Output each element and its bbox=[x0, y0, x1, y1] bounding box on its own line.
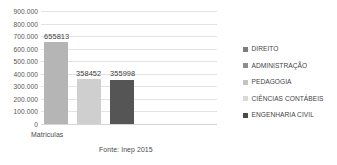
legend-swatch-icon bbox=[243, 80, 248, 85]
legend-swatch-icon bbox=[243, 113, 248, 118]
y-tick-label: 900.000 bbox=[13, 8, 38, 15]
x-axis-category-label: Matriculas bbox=[31, 131, 63, 138]
bar-direito[interactable] bbox=[44, 42, 68, 124]
legend-item-direito[interactable]: DIREITO bbox=[243, 41, 337, 58]
y-tick-label: 0 bbox=[34, 121, 38, 128]
legend-swatch-icon bbox=[243, 47, 248, 52]
bar-value-label: 655813 bbox=[44, 33, 69, 41]
y-tick-label: 800.000 bbox=[13, 20, 38, 27]
y-tick-label: 700.000 bbox=[13, 33, 38, 40]
legend-item-engenharia-civil[interactable]: ENGENHARIA CIVIL bbox=[243, 107, 337, 124]
chart-legend: DIREITO ADMINISTRAÇÃO PEDAGOGIA CIÊNCIAS… bbox=[243, 41, 337, 124]
legend-item-ciencias-contabeis[interactable]: CIÊNCIAS CONTÁBEIS bbox=[243, 91, 337, 108]
legend-swatch-icon bbox=[243, 63, 248, 68]
legend-item-administracao[interactable]: ADMINISTRAÇÃO bbox=[243, 58, 337, 75]
legend-item-pedagogia[interactable]: PEDAGOGIA bbox=[243, 74, 337, 91]
legend-label: ADMINISTRAÇÃO bbox=[252, 62, 308, 70]
legend-label: CIÊNCIAS CONTÁBEIS bbox=[252, 95, 324, 103]
legend-swatch-icon bbox=[243, 96, 248, 101]
plot-area: 900.000 800.000 700.000 600.000 500.000 … bbox=[0, 0, 222, 145]
legend-label: ENGENHARIA CIVIL bbox=[252, 111, 314, 119]
y-tick-label: 600.000 bbox=[13, 45, 38, 52]
y-tick-label: 200.000 bbox=[13, 95, 38, 102]
legend-label: PEDAGOGIA bbox=[252, 78, 292, 86]
bar-pedagogia[interactable] bbox=[110, 80, 134, 125]
bar-chart: 900.000 800.000 700.000 600.000 500.000 … bbox=[0, 0, 337, 165]
source-note: Fonte: Inep 2015 bbox=[99, 146, 153, 153]
y-tick-label: 300.000 bbox=[13, 83, 38, 90]
bar-value-label: 358452 bbox=[76, 70, 101, 78]
y-axis-labels: 900.000 800.000 700.000 600.000 500.000 … bbox=[0, 0, 38, 130]
bar-series-group bbox=[41, 11, 217, 124]
y-tick-label: 500.000 bbox=[13, 58, 38, 65]
y-tick-label: 100.000 bbox=[13, 108, 38, 115]
bar-value-label: 355998 bbox=[110, 70, 135, 78]
legend-label: DIREITO bbox=[252, 45, 279, 53]
y-tick-label: 400.000 bbox=[13, 70, 38, 77]
bar-administracao[interactable] bbox=[77, 79, 101, 124]
